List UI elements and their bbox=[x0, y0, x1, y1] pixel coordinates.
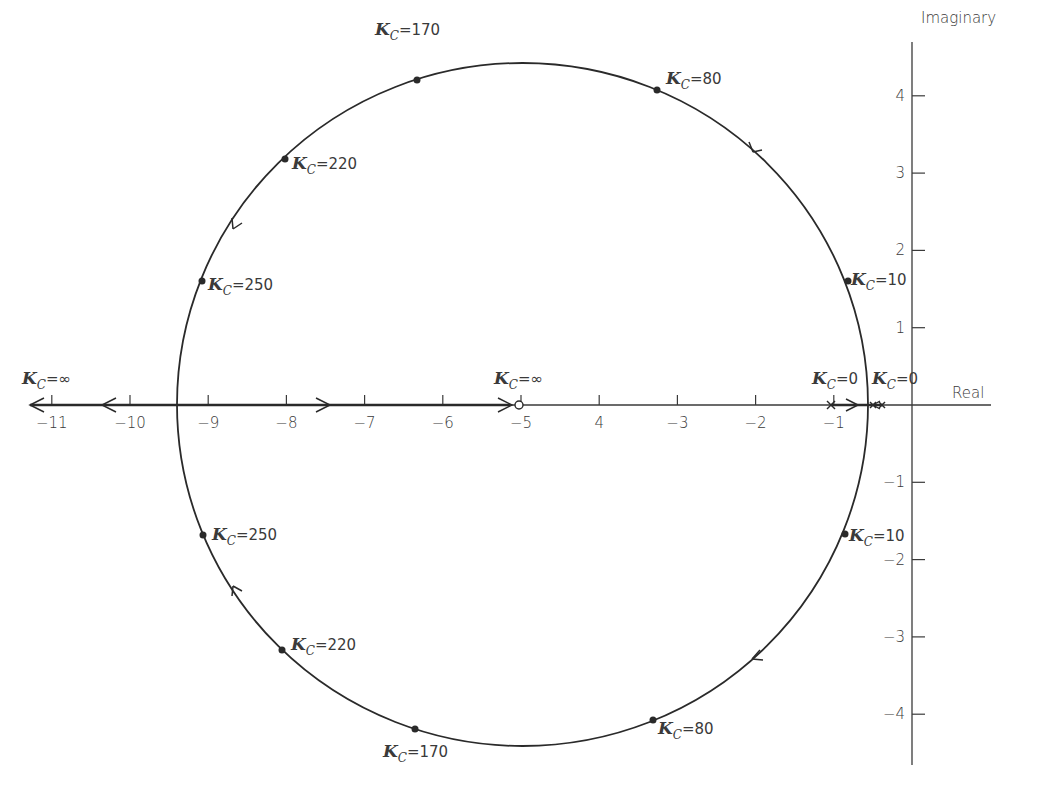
arrow-icon bbox=[749, 142, 762, 152]
gain-point-label: KC=250 bbox=[211, 524, 277, 548]
gain-annotation: KC=∞ bbox=[493, 368, 543, 392]
x-tick-label: −7 bbox=[354, 414, 376, 432]
gain-point-marker-icon bbox=[200, 532, 207, 539]
gain-point-label: KC=220 bbox=[291, 153, 357, 177]
x-tick-label: −2 bbox=[745, 414, 767, 432]
x-tick-label: −11 bbox=[36, 414, 68, 432]
gain-point-label: KC=80 bbox=[657, 718, 714, 742]
x-tick-label: −9 bbox=[197, 414, 219, 432]
x-tick-label: −8 bbox=[275, 414, 297, 432]
root-locus-chart: Real Imaginary −11−10−9−8−7−6−54−3−2−1 4… bbox=[0, 0, 1038, 785]
arrow-icon bbox=[232, 218, 242, 229]
y-tick-label: −3 bbox=[883, 628, 905, 646]
y-tick-label: 2 bbox=[895, 241, 905, 259]
x-tick-label: −5 bbox=[510, 414, 532, 432]
gain-point-label: KC=220 bbox=[290, 634, 356, 658]
gain-annotation: KC=0 bbox=[871, 368, 918, 392]
gain-point-label: KC=10 bbox=[850, 269, 907, 293]
gain-point-label: KC=170 bbox=[374, 19, 440, 43]
gain-point-marker-icon bbox=[199, 278, 206, 285]
gain-point-marker-icon bbox=[282, 156, 289, 163]
gain-points: KC=170KC=80KC=220KC=250KC=10KC=250KC=220… bbox=[199, 19, 907, 765]
x-tick-label: −6 bbox=[432, 414, 454, 432]
gain-point-marker-icon bbox=[414, 77, 421, 84]
gain-point-label: KC=170 bbox=[382, 741, 448, 765]
gain-point-label: KC=80 bbox=[665, 68, 722, 92]
gain-point-label: KC=10 bbox=[848, 525, 905, 549]
y-axis-title: Imaginary bbox=[921, 9, 996, 27]
gain-point-marker-icon bbox=[279, 647, 286, 654]
x-tick-label: 4 bbox=[594, 414, 604, 432]
y-tick-label: −2 bbox=[883, 551, 905, 569]
gain-point-marker-icon bbox=[842, 531, 849, 538]
gain-point-label: KC=250 bbox=[207, 274, 273, 298]
arc-arrows bbox=[232, 142, 763, 660]
x-ticks: −11−10−9−8−7−6−54−3−2−1 bbox=[36, 395, 845, 432]
gain-point-marker-icon bbox=[412, 726, 419, 733]
gain-annotation: KC=∞ bbox=[21, 368, 71, 392]
y-tick-label: 3 bbox=[895, 164, 905, 182]
gain-point-marker-icon bbox=[654, 87, 661, 94]
x-tick-label: −1 bbox=[823, 414, 845, 432]
y-tick-label: −1 bbox=[883, 473, 905, 491]
gain-annotation: KC=0 bbox=[811, 368, 858, 392]
annotations: KC=∞KC=∞KC=0KC=0 bbox=[21, 368, 918, 392]
y-tick-label: 1 bbox=[895, 319, 905, 337]
y-tick-label: −4 bbox=[883, 705, 905, 723]
x-tick-label: −3 bbox=[666, 414, 688, 432]
x-axis-title: Real bbox=[952, 384, 984, 402]
y-tick-label: 4 bbox=[895, 87, 905, 105]
x-tick-label: −10 bbox=[114, 414, 146, 432]
zero-marker-icon bbox=[515, 401, 523, 409]
gain-point-marker-icon bbox=[650, 717, 657, 724]
